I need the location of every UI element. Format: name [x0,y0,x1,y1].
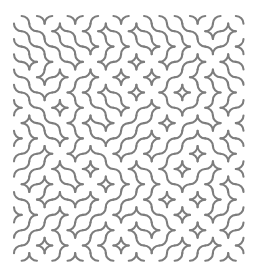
truchet-maze-pattern [0,0,258,280]
background-rect [0,0,258,280]
figure-canvas [0,0,258,280]
